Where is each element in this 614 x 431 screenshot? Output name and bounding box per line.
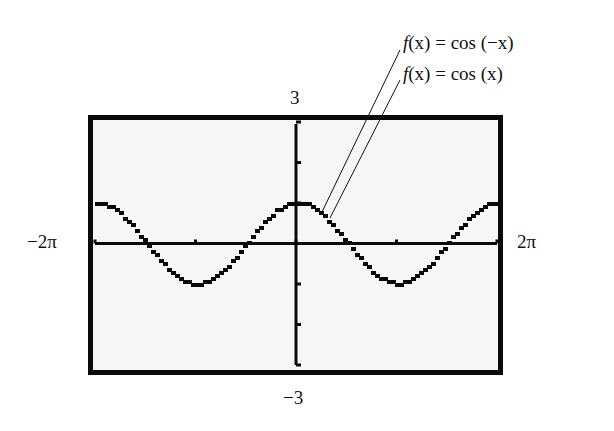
axes — [94, 121, 499, 367]
plot-overlay — [0, 0, 614, 431]
legend-1-body: (x) = cos (−x) — [408, 32, 513, 53]
leader-line-cos-x — [330, 80, 400, 218]
leader-line-cos-neg-x — [321, 50, 400, 214]
legend-2-body: (x) = cos (x) — [408, 63, 503, 84]
legend-line-1: f(x) = cos (−x) — [403, 33, 514, 52]
legend-line-2: f(x) = cos (x) — [403, 64, 503, 83]
